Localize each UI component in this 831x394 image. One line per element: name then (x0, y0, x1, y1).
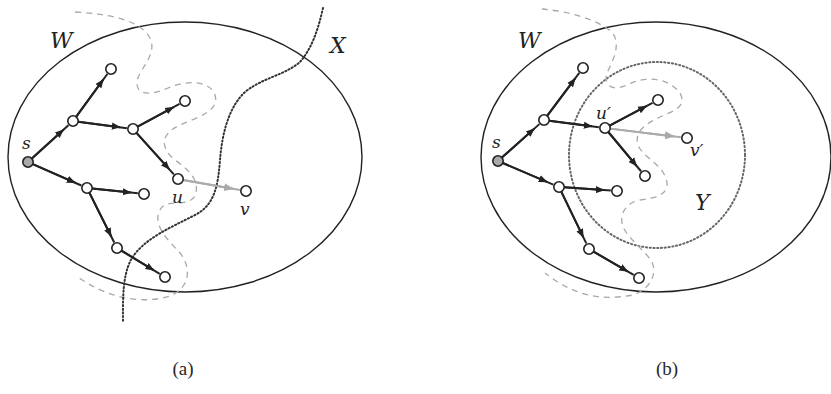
tree-edge-arrowhead (549, 121, 592, 127)
explored-region-boundary (542, 9, 682, 297)
figure-canvas: suvWX(a) su′v′WY(b) (0, 0, 831, 394)
node-b1 (128, 124, 138, 134)
explored-region-boundary (75, 12, 216, 300)
panel-caption: (a) (172, 358, 193, 380)
tree-edge-arrowhead (76, 80, 103, 117)
tree-edge-arrowhead (92, 189, 131, 193)
crossing-edge-arrowhead (183, 180, 233, 189)
crossing-edge-arrowhead (610, 129, 674, 137)
node-a2 (578, 63, 588, 73)
node-label-v: v (240, 199, 250, 219)
set-x-boundary (123, 8, 323, 322)
tree-edge-arrowhead (547, 79, 575, 116)
node-d1 (584, 244, 594, 254)
node-d2 (634, 273, 644, 283)
node-d2 (160, 272, 170, 282)
node-label-s: s (22, 133, 31, 153)
tree-edge-arrowhead (78, 122, 120, 128)
tree-edge-arrowhead (32, 130, 63, 159)
node-a2 (106, 64, 116, 74)
tree-edge-arrowhead (561, 192, 583, 237)
node-label-v: v′ (690, 140, 704, 160)
node-u (600, 123, 610, 133)
tree-edge-arrowhead (136, 133, 169, 169)
set-w-boundary (8, 22, 362, 292)
node-label-u: u (172, 187, 183, 207)
node-c2 (139, 189, 149, 199)
tree-edge-arrowhead (593, 252, 627, 272)
set-label-w: W (518, 28, 543, 53)
node-v (241, 186, 251, 196)
panel-caption: (b) (656, 358, 678, 380)
set-label-w: W (50, 28, 75, 53)
node-u (173, 174, 183, 184)
node-c1 (554, 182, 564, 192)
node-s (493, 156, 503, 166)
set-label-x: X (328, 33, 347, 58)
node-b2 (180, 96, 190, 106)
tree-edge-arrowhead (503, 163, 547, 182)
tree-edge-arrowhead (138, 107, 174, 126)
node-b2 (653, 95, 663, 105)
tree-edge-arrowhead (610, 106, 647, 125)
node-a1 (539, 115, 549, 125)
set-label-y: Y (695, 190, 712, 215)
tree-edge-arrowhead (89, 193, 111, 237)
tree-edge-arrowhead (608, 132, 636, 166)
node-s (23, 157, 33, 167)
node-d1 (112, 243, 122, 253)
node-a1 (68, 116, 78, 126)
node-c1 (82, 183, 92, 193)
panel-b: su′v′WY(b) (481, 9, 831, 380)
tree-edge-arrowhead (564, 187, 604, 190)
panel-a: suvWX(a) (8, 8, 362, 380)
tree-edge-arrowhead (121, 251, 153, 270)
tree-edge-arrowhead (33, 164, 75, 183)
node-label-u: u′ (596, 103, 611, 123)
node-b3 (640, 171, 650, 181)
node-label-s: s (492, 132, 501, 152)
tree-edge-arrowhead (502, 129, 534, 158)
node-c2 (612, 186, 622, 196)
set-y-boundary (569, 62, 745, 248)
